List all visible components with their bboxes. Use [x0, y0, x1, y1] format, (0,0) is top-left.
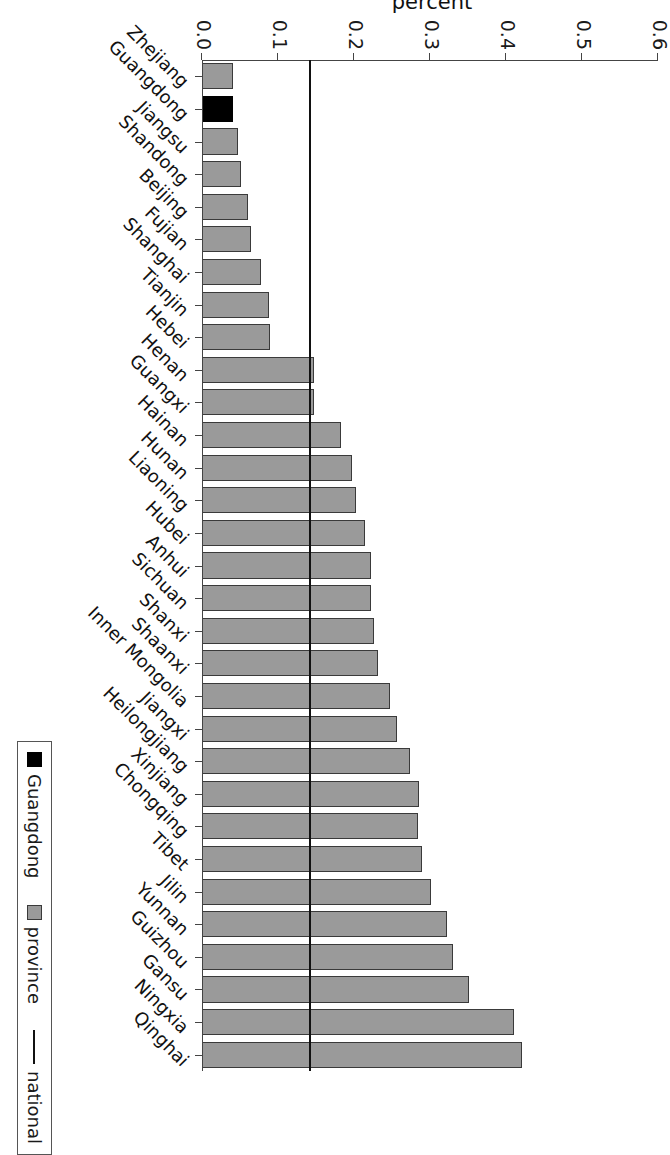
bar-row	[202, 944, 658, 970]
bar-row	[202, 748, 658, 774]
bar-row	[202, 879, 658, 905]
category-tick	[195, 402, 202, 403]
category-tick	[195, 924, 202, 925]
category-tick	[195, 696, 202, 697]
bar-row	[202, 618, 658, 644]
bar-row	[202, 1009, 658, 1035]
x-axis-baseline	[202, 60, 203, 1071]
bar-shanghai	[202, 259, 261, 285]
bar-hunan	[202, 455, 352, 481]
bar-tianjin	[202, 292, 269, 318]
bar-yunnan	[202, 911, 447, 937]
category-tick	[195, 957, 202, 958]
bar-row	[202, 324, 658, 350]
national-reference-line	[309, 60, 311, 1071]
category-tick	[195, 794, 202, 795]
bar-tibet	[202, 846, 422, 872]
bar-shandong	[202, 161, 241, 187]
bar-row	[202, 683, 658, 709]
category-tick	[195, 239, 202, 240]
bar-hubei	[202, 520, 365, 546]
bar-liaoning	[202, 487, 356, 513]
black-square-icon	[27, 752, 42, 767]
category-tick	[195, 566, 202, 567]
category-tick	[195, 1022, 202, 1023]
category-tick	[195, 729, 202, 730]
bar-hebei	[202, 324, 270, 350]
category-tick	[195, 500, 202, 501]
bar-heilongjiang	[202, 748, 410, 774]
grey-square-icon	[27, 905, 42, 920]
category-tick	[195, 663, 202, 664]
bar-row	[202, 846, 658, 872]
bar-row	[202, 357, 658, 383]
value-tick	[581, 53, 582, 60]
bar-ningxia	[202, 1009, 514, 1035]
category-tick	[195, 337, 202, 338]
category-label: Tibet	[147, 828, 194, 875]
category-tick	[195, 207, 202, 208]
bar-row	[202, 813, 658, 839]
value-tick-label: 0.6	[649, 8, 670, 50]
bar-row	[202, 976, 658, 1002]
line-marker-icon	[34, 1030, 36, 1064]
value-tick	[657, 53, 658, 60]
bar-row	[202, 259, 658, 285]
category-tick	[195, 109, 202, 110]
bar-jiangxi	[202, 716, 397, 742]
bar-row	[202, 96, 658, 122]
category-tick	[195, 76, 202, 77]
legend-item-national: national	[24, 1030, 45, 1144]
category-tick	[195, 305, 202, 306]
bar-row	[202, 487, 658, 513]
category-tick	[195, 598, 202, 599]
value-tick-label: 0.1	[269, 8, 291, 50]
bar-fujian	[202, 226, 251, 252]
category-tick	[195, 533, 202, 534]
value-tick	[429, 53, 430, 60]
bar-zhejiang	[202, 63, 233, 89]
category-tick	[195, 370, 202, 371]
category-tick	[195, 631, 202, 632]
bar-guangxi	[202, 389, 314, 415]
bar-row	[202, 422, 658, 448]
chart-legend: Guangdong province national	[17, 741, 52, 1155]
legend-label-national: national	[24, 1071, 45, 1144]
category-tick	[195, 142, 202, 143]
plot-area: ZhejiangGuangdongJiangsuShandongBeijingF…	[202, 60, 658, 1071]
bar-hainan	[202, 422, 341, 448]
category-tick	[195, 1055, 202, 1056]
bar-row	[202, 781, 658, 807]
bar-sichuan	[202, 585, 371, 611]
bar-row	[202, 161, 658, 187]
bar-row	[202, 716, 658, 742]
bar-row	[202, 226, 658, 252]
category-tick	[195, 761, 202, 762]
bar-anhui	[202, 552, 371, 578]
legend-item-province: province	[24, 905, 45, 1004]
bar-gansu	[202, 976, 469, 1002]
bar-qinghai	[202, 1042, 522, 1068]
bar-row	[202, 455, 658, 481]
value-tick-label: 0.0	[193, 8, 215, 50]
value-tick-label: 0.2	[345, 8, 367, 50]
value-tick	[505, 53, 506, 60]
bar-guizhou	[202, 944, 453, 970]
category-tick	[195, 892, 202, 893]
value-tick	[277, 53, 278, 60]
value-tick-label: 0.4	[497, 8, 519, 50]
bar-row	[202, 650, 658, 676]
bar-jiangsu	[202, 128, 238, 154]
category-tick	[195, 859, 202, 860]
value-tick	[353, 53, 354, 60]
bar-row	[202, 194, 658, 220]
value-tick-label: 0.3	[421, 8, 443, 50]
bar-inner-mongolia	[202, 683, 390, 709]
bar-row	[202, 520, 658, 546]
category-tick	[195, 174, 202, 175]
bar-row	[202, 128, 658, 154]
category-tick	[195, 435, 202, 436]
bar-shanxi	[202, 618, 374, 644]
